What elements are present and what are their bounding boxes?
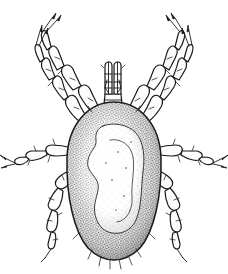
figure-root bbox=[0, 0, 228, 274]
mite-illustration bbox=[0, 0, 228, 274]
